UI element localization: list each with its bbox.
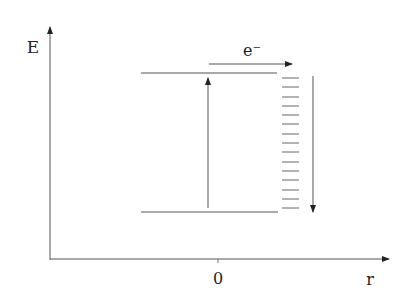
energy-level-diagram: E 0 r e⁻ — [0, 0, 407, 302]
electron-label: e⁻ — [243, 41, 261, 60]
x-axis-label: r — [366, 270, 374, 289]
energy-band — [282, 78, 299, 208]
x-tick-label-zero: 0 — [213, 269, 223, 288]
y-axis-label: E — [27, 37, 39, 57]
